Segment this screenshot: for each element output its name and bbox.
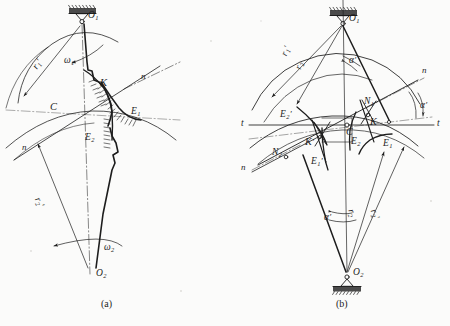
- figure-canvas: O1 O2 r1′ r2′ ω1 ω2 C K E1 E2 n n (a) O1…: [0, 0, 450, 326]
- normal-n-upper-label-b: n: [422, 66, 427, 75]
- profile-e2-prime-label-b: E2′: [280, 110, 292, 120]
- profile-e1-label-b: E1: [383, 139, 393, 149]
- alpha-prime-bottom-label-b: α′: [324, 213, 331, 223]
- scan-speckle: [180, 290, 182, 292]
- alpha-prime-right-label-b: α′: [420, 101, 427, 111]
- scan-speckle: [260, 20, 262, 22]
- scan-speckle: [210, 40, 212, 42]
- contact-point-k-label-b: K: [370, 117, 377, 127]
- alpha-prime-top-label-b: α′: [349, 56, 356, 66]
- profile-e2-label-b: E2: [351, 137, 361, 147]
- tangent-t-right-label-b: t: [437, 119, 440, 129]
- scan-speckle: [30, 250, 32, 252]
- pitch-point-c-label-a: C: [50, 102, 57, 113]
- pivot-o1-label-b: O1: [349, 14, 360, 24]
- omega1-label-a: ω1: [64, 56, 74, 66]
- tangent-t-left-label-b: t: [241, 119, 244, 129]
- normal-n-lower-label-b: n: [241, 163, 246, 172]
- omega2-label-a: ω2: [104, 243, 114, 253]
- normal-n-upper-label-a: n: [141, 72, 146, 81]
- contact-point-k-prime-label-b: K′: [305, 137, 314, 147]
- pivot-o1-label-a: O1: [88, 11, 99, 21]
- scan-speckle: [430, 200, 432, 202]
- diagram-vector-layer: [0, 0, 450, 326]
- normal-n-lower-label-a: n: [22, 143, 27, 152]
- point-n2-label-b: N2: [272, 148, 282, 158]
- subfigure-caption-a: (a): [101, 298, 112, 309]
- point-n1-label-b: N1: [364, 97, 374, 107]
- profile-e1-prime-label-b: E1′: [311, 157, 323, 167]
- pivot-o2-label-b: O2: [353, 268, 364, 278]
- pivot-o2-label-a: O2: [96, 269, 107, 279]
- profile-e1-label-a: E1: [131, 107, 141, 117]
- subfigure-caption-b: (b): [336, 298, 348, 309]
- contact-point-k-label-a: K: [100, 78, 107, 89]
- profile-e2-label-a: E2: [85, 133, 95, 143]
